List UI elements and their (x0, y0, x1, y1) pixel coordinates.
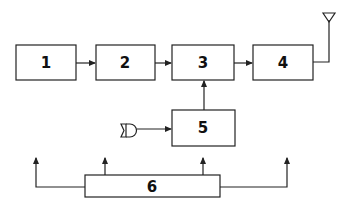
block-diagram: 1 2 3 4 5 6 (0, 0, 343, 206)
block-4-label: 4 (278, 54, 288, 72)
block-5-label: 5 (198, 119, 208, 137)
block-1-label: 1 (41, 54, 51, 72)
block-6-label: 6 (147, 178, 157, 196)
line-4-antenna (313, 20, 329, 62)
microphone-icon (121, 124, 137, 137)
block-3-label: 3 (198, 54, 208, 72)
block-2-label: 2 (120, 54, 130, 72)
output-left (36, 158, 85, 187)
output-right (220, 158, 287, 187)
